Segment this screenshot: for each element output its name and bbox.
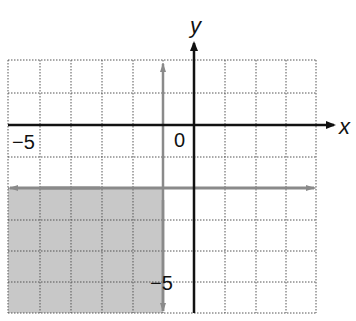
coordinate-plane: x y 0 −5 −5 [0,0,356,321]
x-axis-label: x [338,114,351,139]
origin-label: 0 [174,129,185,151]
y-tick-label: −5 [150,272,173,294]
shaded-region [8,188,163,313]
x-tick-label: −5 [12,131,35,153]
y-axis-label: y [188,13,203,38]
